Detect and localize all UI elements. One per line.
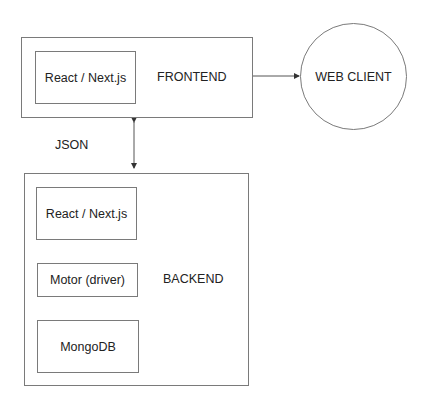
frontend-react-nextjs-box: React / Next.js [35, 51, 136, 104]
web-client-label: WEB CLIENT [315, 70, 391, 84]
backend-react-nextjs-box: React / Next.js [36, 187, 137, 240]
mongodb-label: MongoDB [60, 340, 116, 354]
mongodb-box: MongoDB [37, 320, 139, 373]
frontend-label: FRONTEND [157, 71, 226, 84]
motor-driver-label: Motor (driver) [50, 273, 125, 287]
backend-label: BACKEND [163, 273, 223, 286]
backend-react-nextjs-label: React / Next.js [46, 207, 127, 221]
json-connection-label: JSON [55, 139, 88, 152]
frontend-react-nextjs-label: React / Next.js [45, 71, 126, 85]
web-client-node: WEB CLIENT [300, 23, 407, 130]
motor-driver-box: Motor (driver) [37, 263, 138, 297]
